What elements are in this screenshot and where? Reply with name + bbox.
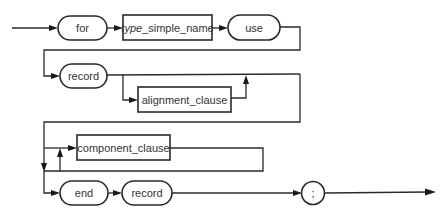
arrow-icon: [68, 145, 77, 151]
use-label: use: [245, 22, 263, 34]
arrow-icon: [219, 25, 228, 31]
arrow-icon: [113, 190, 122, 196]
arrow-icon: [49, 25, 58, 31]
row-4: end record ;: [51, 181, 436, 205]
alignment-clause-label: alignment_clause: [142, 94, 228, 106]
exit-line: [325, 192, 428, 193]
component-clause-label: component_clause: [77, 142, 169, 154]
type-simple-name-label: type_simple_name: [121, 22, 213, 34]
arrow-icon: [129, 97, 138, 103]
optional-branch: [123, 75, 132, 100]
bypass-line: [107, 74, 300, 75]
exit-line: [44, 171, 54, 193]
arrow-icon: [51, 190, 60, 196]
for-label: for: [76, 22, 89, 34]
semicolon-label: ;: [311, 187, 314, 199]
arrow-icon: [51, 73, 60, 79]
row-1: for type_simple_name use: [12, 15, 300, 79]
arrow-icon: [243, 75, 249, 84]
arrow-icon: [293, 190, 302, 196]
record-end-label: record: [131, 187, 162, 199]
end-label: end: [75, 187, 93, 199]
optional-return: [231, 82, 246, 98]
record-label: record: [68, 70, 99, 82]
arrow-icon: [425, 189, 436, 196]
arrow-icon: [57, 148, 63, 157]
syntax-diagram: for type_simple_name use record alignmen…: [0, 0, 447, 223]
